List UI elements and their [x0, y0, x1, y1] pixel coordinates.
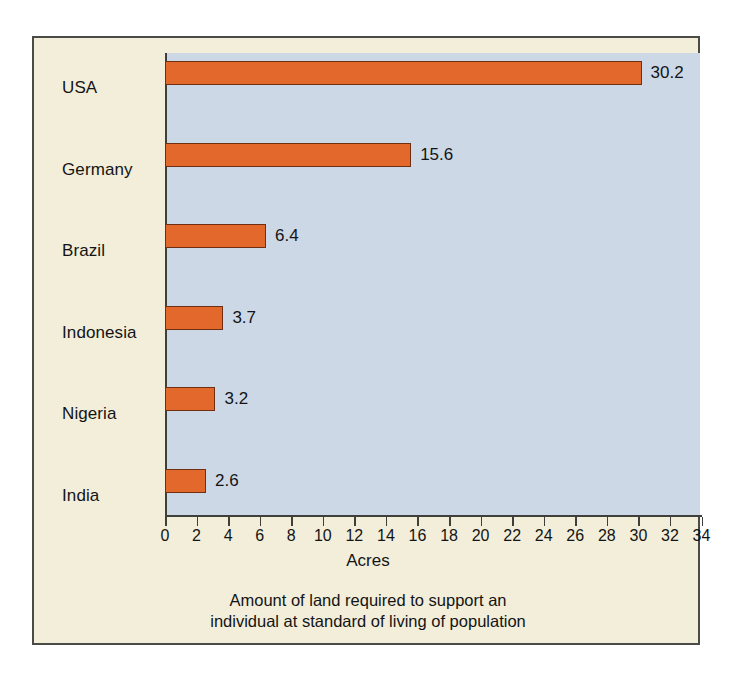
- x-axis-tick: [165, 517, 167, 526]
- x-axis-tick: [228, 517, 230, 526]
- bar-value-label: 30.2: [651, 63, 684, 83]
- bar: [165, 306, 223, 330]
- x-axis-tick-label: 6: [255, 527, 264, 545]
- bar-row: 3.7: [165, 306, 256, 330]
- x-axis-title: Acres: [34, 551, 702, 571]
- x-axis-tick: [197, 517, 199, 526]
- x-axis-tick-label: 14: [377, 527, 395, 545]
- x-axis-tick: [670, 517, 672, 526]
- bar-value-label: 15.6: [420, 145, 453, 165]
- category-label: Germany: [62, 160, 133, 180]
- x-axis-tick: [260, 517, 262, 526]
- bar: [165, 469, 206, 493]
- x-axis-tick-label: 2: [192, 527, 201, 545]
- x-axis-tick-label: 0: [161, 527, 170, 545]
- bar: [165, 61, 642, 85]
- x-axis-tick-label: 26: [566, 527, 584, 545]
- x-axis-tick: [702, 517, 704, 526]
- x-axis-tick: [291, 517, 293, 526]
- x-axis-tick-label: 22: [503, 527, 521, 545]
- x-axis-tick-label: 8: [287, 527, 296, 545]
- bar: [165, 224, 266, 248]
- bar-value-label: 3.7: [232, 308, 256, 328]
- x-axis-tick-label: 10: [314, 527, 332, 545]
- x-axis-tick: [638, 517, 640, 526]
- x-axis-tick-label: 34: [693, 527, 711, 545]
- x-axis-tick-label: 30: [629, 527, 647, 545]
- x-axis-tick: [575, 517, 577, 526]
- category-label: Indonesia: [62, 323, 137, 343]
- category-label: Brazil: [62, 241, 105, 261]
- bar-row: 3.2: [165, 387, 248, 411]
- x-axis-tick-label: 4: [224, 527, 233, 545]
- category-label-strip: USAGermanyBrazilIndonesiaNigeriaIndia: [34, 53, 165, 515]
- x-axis-tick: [544, 517, 546, 526]
- x-axis-tick: [512, 517, 514, 526]
- caption-line-2: individual at standard of living of popu…: [34, 611, 702, 632]
- bar-row: 15.6: [165, 143, 453, 167]
- x-axis-tick-label: 20: [472, 527, 490, 545]
- x-axis-tick: [481, 517, 483, 526]
- x-axis-tick: [449, 517, 451, 526]
- bar-value-label: 3.2: [224, 389, 248, 409]
- category-label: India: [62, 486, 99, 506]
- bar: [165, 387, 215, 411]
- x-axis-line: [165, 515, 702, 517]
- x-axis-tick: [386, 517, 388, 526]
- x-axis-tick: [323, 517, 325, 526]
- x-axis-tick-label: 32: [661, 527, 679, 545]
- x-axis-tick-label: 12: [345, 527, 363, 545]
- category-label: Nigeria: [62, 404, 117, 424]
- bar-value-label: 6.4: [275, 226, 299, 246]
- caption-line-1: Amount of land required to support an: [34, 590, 702, 611]
- x-axis-tick: [417, 517, 419, 526]
- category-label: USA: [62, 78, 97, 98]
- x-axis-tick-label: 16: [409, 527, 427, 545]
- x-axis-tick-label: 18: [440, 527, 458, 545]
- bar: [165, 143, 411, 167]
- chart-figure-frame: USAGermanyBrazilIndonesiaNigeriaIndia 30…: [32, 36, 700, 645]
- x-axis-tick: [354, 517, 356, 526]
- bar-row: 30.2: [165, 61, 684, 85]
- chart-caption: Amount of land required to support an in…: [34, 590, 702, 632]
- bar-row: 6.4: [165, 224, 299, 248]
- x-axis-tick-label: 24: [535, 527, 553, 545]
- x-axis-tick-label: 28: [598, 527, 616, 545]
- bar-row: 2.6: [165, 469, 239, 493]
- plot-area: [165, 53, 700, 515]
- x-axis-tick: [607, 517, 609, 526]
- bar-value-label: 2.6: [215, 471, 239, 491]
